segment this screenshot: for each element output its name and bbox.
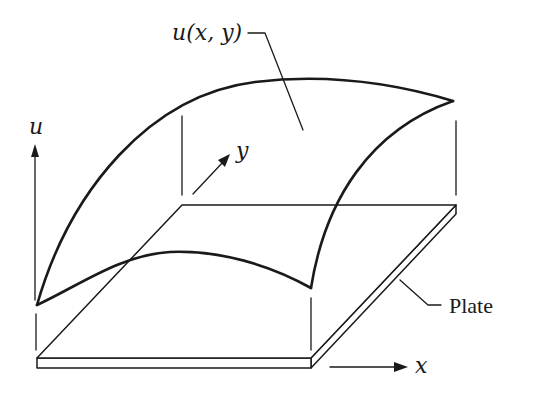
- y-axis: [193, 154, 230, 194]
- u-axis: [31, 144, 39, 300]
- plate-front-face: [37, 358, 311, 368]
- plate-leader-line: [400, 280, 441, 305]
- y-axis-line: [193, 161, 224, 194]
- x-axis-arrowhead: [394, 362, 408, 372]
- u-axis-label: u: [29, 114, 43, 139]
- x-axis-label: x: [415, 353, 428, 378]
- y-axis-label: y: [235, 138, 249, 163]
- surface-label: u(x, y): [172, 20, 242, 45]
- u-axis-arrowhead: [31, 144, 39, 157]
- x-axis: [330, 362, 408, 372]
- plate-label: Plate: [449, 293, 493, 318]
- plate: [37, 205, 456, 368]
- plate-deflection-diagram: u y x u(x, y) Plate: [0, 0, 533, 394]
